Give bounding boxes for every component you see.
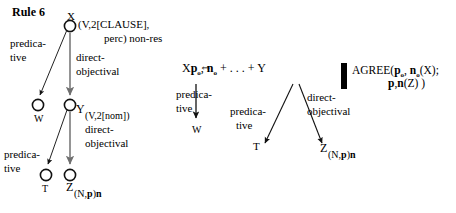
edge-y-to-t: [48, 110, 67, 164]
right-expression-x: X: [182, 61, 191, 75]
edge-label-y-t-line1: predica-: [4, 149, 40, 161]
edge-label-x-y-line2: objectival: [76, 66, 119, 78]
right-edge-label-y-t-line2: tive: [236, 120, 253, 132]
agree-vertical-bar: [341, 63, 347, 89]
node-subscript-x-line2: perc) non-res: [104, 33, 162, 45]
agree-prefix: AGREE(: [352, 64, 394, 76]
node-label-y: Y: [76, 103, 85, 115]
agree-line-2: p,n(Z) ): [388, 77, 425, 90]
right-edge-label-y-z-line1: direct-: [307, 92, 336, 104]
node-subscript-z-left: (N,p)n: [74, 188, 102, 200]
edge-label-y-z-line2: objectival: [85, 138, 128, 150]
node-circle-x: [64, 20, 75, 31]
right-edge-label-x-w-line1: predica-: [176, 89, 212, 101]
edge-label-x-y-line1: direct-: [76, 52, 105, 64]
node-circle-t-left: [40, 169, 51, 180]
right-edge-label-y-t-line1: predica-: [230, 106, 266, 118]
agree-suffix: (X);: [420, 64, 439, 76]
right-expression-n: n: [207, 61, 214, 75]
node-label-x: X: [67, 10, 75, 22]
right-edge-label-x-w-line2: tive: [176, 103, 193, 115]
right-node-subscript-z: (N,p)n: [328, 149, 356, 161]
node-circle-w-left: [32, 99, 43, 110]
node-subscript-x-line1: (V,2[CLAUSE],: [78, 19, 149, 31]
edge-right-y-to-t: [265, 84, 293, 143]
right-node-label-t: T: [253, 140, 260, 152]
rule-diagram-figure: Rule 6 X (V,2[CLAUSE], perc) non-res pre…: [0, 0, 456, 213]
right-expression-plus-dots: + . . . +: [217, 61, 257, 75]
right-node-label-w: W: [192, 124, 201, 136]
edge-label-x-w-line1: predica-: [10, 38, 46, 50]
right-edge-label-y-z-line2: objectival: [307, 106, 350, 118]
right-expression: Xpo, no + . . . + Y: [182, 62, 266, 80]
agree2-suffix: (Z) ): [404, 77, 425, 89]
rule-title: Rule 6: [12, 6, 45, 18]
node-label-t-left: T: [42, 183, 48, 195]
edge-label-y-t-line2: tive: [4, 163, 21, 175]
node-circle-y: [64, 99, 75, 110]
node-label-z-left: Z: [66, 181, 73, 193]
node-circle-z-left: [64, 169, 75, 180]
edge-label-x-w-line2: tive: [10, 52, 27, 64]
right-node-label-z: Z: [320, 142, 327, 154]
node-subscript-y: (V,2[nom]): [85, 110, 130, 122]
right-expression-y: Y: [257, 61, 266, 75]
edge-label-y-z-line1: direct-: [85, 124, 114, 136]
node-label-w-left: W: [34, 113, 43, 125]
